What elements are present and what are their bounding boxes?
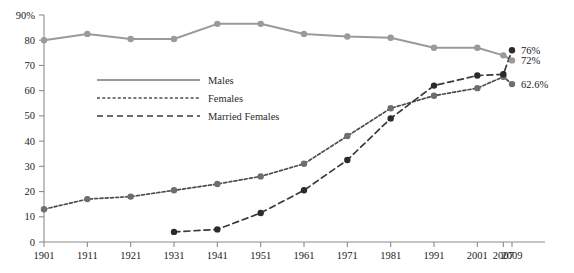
data-point-males bbox=[84, 31, 90, 37]
y-tick-label: 50 bbox=[25, 110, 36, 121]
data-point-married-females bbox=[171, 229, 177, 235]
data-point-married-females bbox=[474, 72, 480, 78]
end-label-males: 72% bbox=[521, 55, 541, 66]
y-tick-label: 60 bbox=[25, 85, 36, 96]
data-point-males bbox=[214, 21, 220, 27]
x-tick-label: 1931 bbox=[164, 250, 185, 261]
data-point-males bbox=[301, 31, 307, 37]
y-tick-label: 30 bbox=[25, 161, 36, 172]
data-point-females bbox=[344, 133, 350, 139]
y-axis: 0102030405060708090% bbox=[16, 10, 44, 248]
x-tick-label: 1991 bbox=[424, 250, 445, 261]
chart-container: 0102030405060708090% 1901191119211931194… bbox=[0, 0, 574, 273]
series-line-males bbox=[44, 24, 512, 61]
data-point-married-females bbox=[301, 187, 307, 193]
data-point-females bbox=[474, 85, 480, 91]
x-tick-label: 1951 bbox=[250, 250, 271, 261]
data-point-females bbox=[41, 206, 47, 212]
data-point-males bbox=[127, 36, 133, 42]
data-point-males bbox=[500, 52, 506, 58]
data-point-males bbox=[257, 21, 263, 27]
data-point-females bbox=[431, 93, 437, 99]
data-point-females bbox=[387, 105, 393, 111]
data-point-females bbox=[214, 181, 220, 187]
x-tick-label: 2009 bbox=[502, 250, 523, 261]
data-point-married-females bbox=[500, 71, 506, 77]
data-point-males bbox=[474, 45, 480, 51]
x-tick-label: 1971 bbox=[337, 250, 358, 261]
data-point-married-females bbox=[214, 226, 220, 232]
x-tick-label: 2001 bbox=[467, 250, 488, 261]
x-tick-label: 1921 bbox=[120, 250, 141, 261]
data-point-males bbox=[509, 57, 515, 63]
x-tick-label: 1981 bbox=[380, 250, 401, 261]
x-tick-label: 1911 bbox=[77, 250, 98, 261]
x-tick-label: 1901 bbox=[34, 250, 55, 261]
series-layer bbox=[44, 24, 512, 232]
data-point-males bbox=[171, 36, 177, 42]
y-tick-label: 70 bbox=[25, 60, 36, 71]
end-label-females: 62.6% bbox=[521, 79, 548, 90]
data-point-married-females bbox=[509, 47, 515, 53]
data-point-married-females bbox=[257, 210, 263, 216]
legend-label-males: Males bbox=[208, 75, 234, 86]
y-tick-label: 90% bbox=[16, 10, 36, 21]
data-point-females bbox=[301, 161, 307, 167]
y-tick-label: 0 bbox=[30, 237, 35, 248]
series-line-females bbox=[44, 77, 512, 209]
line-chart: 0102030405060708090% 1901191119211931194… bbox=[0, 0, 574, 273]
data-point-males bbox=[344, 33, 350, 39]
end-labels: 76%72%62.6% bbox=[521, 45, 548, 90]
data-point-males bbox=[431, 45, 437, 51]
legend-label-married-females: Married Females bbox=[208, 111, 279, 122]
data-point-females bbox=[171, 187, 177, 193]
legend-label-females: Females bbox=[208, 93, 243, 104]
y-tick-label: 40 bbox=[25, 136, 36, 147]
data-point-married-females bbox=[344, 157, 350, 163]
data-point-males bbox=[41, 37, 47, 43]
y-tick-label: 20 bbox=[25, 186, 36, 197]
y-tick-label: 80 bbox=[25, 35, 36, 46]
data-point-females bbox=[127, 193, 133, 199]
data-point-females bbox=[84, 196, 90, 202]
markers-layer bbox=[41, 21, 515, 235]
y-tick-label: 10 bbox=[25, 211, 36, 222]
data-point-males bbox=[387, 35, 393, 41]
data-point-females bbox=[509, 81, 515, 87]
data-point-married-females bbox=[431, 82, 437, 88]
x-axis: 1901191119211931194119511961197119811991… bbox=[34, 242, 546, 261]
data-point-married-females bbox=[387, 115, 393, 121]
chart-legend: MalesFemalesMarried Females bbox=[97, 75, 279, 122]
x-tick-label: 1941 bbox=[207, 250, 228, 261]
data-point-females bbox=[257, 173, 263, 179]
x-tick-label: 1961 bbox=[294, 250, 315, 261]
